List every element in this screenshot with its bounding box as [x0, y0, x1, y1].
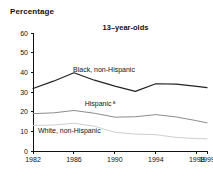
y-tick-label: 40 — [20, 69, 28, 76]
y-tick-label: 50 — [20, 49, 28, 56]
series-label-2: Hispanic a — [85, 100, 116, 108]
x-tick-label: 1982 — [25, 156, 41, 163]
series-label-3: White, non-Hispanic — [38, 127, 101, 135]
y-tick-label: 10 — [20, 128, 28, 135]
x-axis-tick-labels: 198219861990199419981999 — [25, 156, 213, 163]
y-tick-label: 0 — [24, 148, 28, 155]
y-tick-label: 20 — [20, 108, 28, 115]
y-tick-label: 30 — [20, 89, 28, 96]
y-tick-label: 60 — [20, 30, 28, 37]
series-line — [33, 110, 207, 122]
series-line — [33, 73, 207, 92]
chart-container: Percentage 13–year-olds 0102030405060 19… — [0, 0, 213, 183]
x-tick-label: 1999 — [199, 156, 213, 163]
x-tick-label: 1986 — [66, 156, 82, 163]
y-axis-tick-labels: 0102030405060 — [20, 30, 28, 155]
x-tick-label: 1990 — [107, 156, 123, 163]
plot-area: 0102030405060 198219861990199419981999 B… — [0, 0, 213, 183]
x-tick-label: 1994 — [148, 156, 164, 163]
series-label-1: Black, non-Hispanic — [73, 66, 135, 74]
